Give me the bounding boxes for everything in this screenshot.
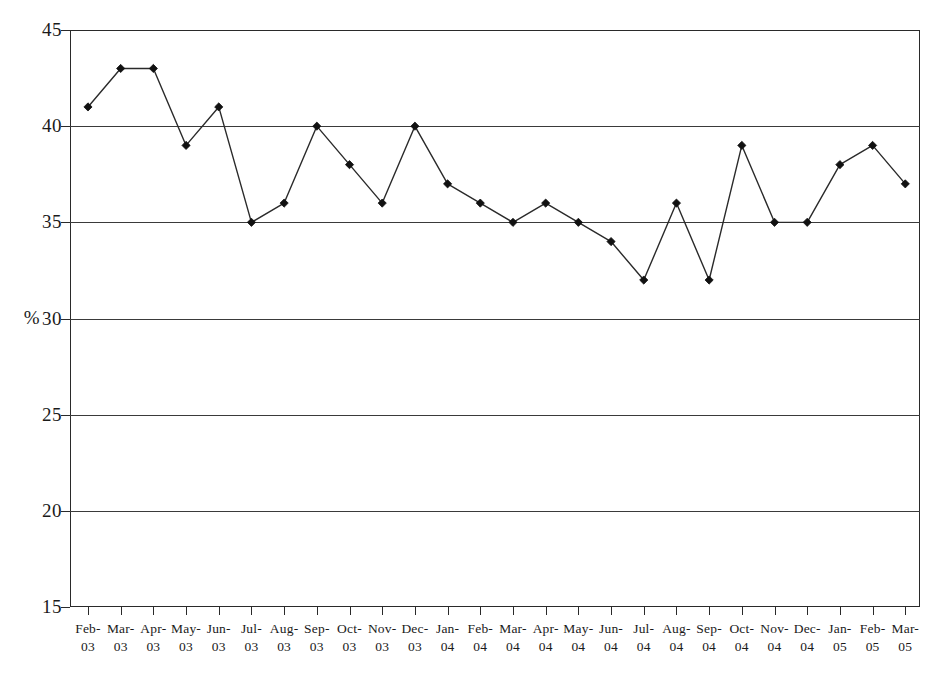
data-point-marker bbox=[672, 199, 680, 207]
y-tick-mark bbox=[61, 415, 70, 416]
x-tick-mark bbox=[546, 607, 547, 615]
data-point-marker bbox=[509, 218, 517, 226]
x-tick-mark bbox=[480, 607, 481, 615]
x-tick-mark bbox=[448, 607, 449, 615]
x-tick-mark bbox=[775, 607, 776, 615]
x-tick-mark bbox=[578, 607, 579, 615]
y-tick-label: 45 bbox=[28, 17, 62, 43]
y-tick-label: 20 bbox=[28, 498, 62, 524]
data-point-marker bbox=[247, 218, 255, 226]
data-point-marker bbox=[411, 122, 419, 130]
x-tick-mark bbox=[415, 607, 416, 615]
y-tick-label: 15 bbox=[28, 594, 62, 620]
data-point-marker bbox=[770, 218, 778, 226]
x-tick-mark bbox=[709, 607, 710, 615]
y-tick-label: 40 bbox=[28, 113, 62, 139]
y-tick-mark bbox=[61, 511, 70, 512]
x-tick-mark bbox=[88, 607, 89, 615]
data-point-marker bbox=[705, 276, 713, 284]
x-tick-mark bbox=[153, 607, 154, 615]
y-tick-label: 30 bbox=[28, 306, 62, 332]
y-tick-label: 35 bbox=[28, 209, 62, 235]
line-chart: % 45403530252015 Feb-03Mar-03Apr-03May-0… bbox=[0, 0, 946, 674]
data-point-marker bbox=[542, 199, 550, 207]
x-tick-label: Mar-05 bbox=[879, 620, 931, 656]
y-tick-mark bbox=[61, 126, 70, 127]
x-tick-mark bbox=[284, 607, 285, 615]
x-tick-mark bbox=[186, 607, 187, 615]
x-tick-mark bbox=[905, 607, 906, 615]
x-tick-mark bbox=[644, 607, 645, 615]
data-point-marker bbox=[738, 141, 746, 149]
series-line bbox=[88, 68, 905, 280]
data-point-marker bbox=[574, 218, 582, 226]
x-tick-mark bbox=[742, 607, 743, 615]
x-tick-mark bbox=[807, 607, 808, 615]
x-tick-mark bbox=[219, 607, 220, 615]
data-point-marker bbox=[836, 161, 844, 169]
x-tick-mark bbox=[611, 607, 612, 615]
data-point-marker bbox=[476, 199, 484, 207]
data-point-marker bbox=[443, 180, 451, 188]
x-tick-mark bbox=[873, 607, 874, 615]
x-tick-label-month: Mar- bbox=[879, 620, 931, 638]
y-tick-mark bbox=[61, 30, 70, 31]
y-tick-mark bbox=[61, 319, 70, 320]
x-tick-mark bbox=[676, 607, 677, 615]
x-tick-mark bbox=[317, 607, 318, 615]
x-tick-mark bbox=[840, 607, 841, 615]
y-tick-mark bbox=[61, 607, 70, 608]
data-point-marker bbox=[149, 64, 157, 72]
x-tick-mark bbox=[251, 607, 252, 615]
x-tick-mark bbox=[513, 607, 514, 615]
y-tick-label: 25 bbox=[28, 402, 62, 428]
x-tick-mark bbox=[382, 607, 383, 615]
x-tick-mark bbox=[350, 607, 351, 615]
plot-area bbox=[70, 30, 920, 607]
y-tick-mark bbox=[61, 222, 70, 223]
x-tick-mark bbox=[121, 607, 122, 615]
x-tick-label-year: 05 bbox=[879, 638, 931, 656]
data-series bbox=[70, 30, 920, 607]
data-point-marker bbox=[803, 218, 811, 226]
data-point-marker bbox=[280, 199, 288, 207]
